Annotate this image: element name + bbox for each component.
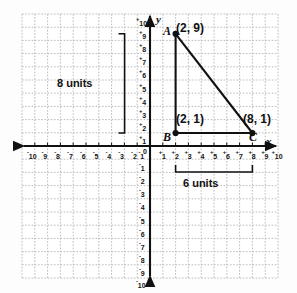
- y-tick--6: -6: [139, 227, 145, 238]
- y-tick--4: -4: [139, 200, 145, 211]
- y-tick-5: +5: [139, 82, 146, 93]
- vertical-measure-label: 8 units: [57, 78, 92, 89]
- y-tick--7: -7: [139, 240, 145, 251]
- y-tick-7: +7: [139, 55, 146, 66]
- y-tick-9: +9: [139, 29, 146, 40]
- coord-label-a: (2, 9): [176, 22, 204, 34]
- x-tick-9: +9: [261, 149, 268, 160]
- x-tick-7: +7: [236, 149, 243, 160]
- point-b: [173, 130, 179, 136]
- coord-label-c: (8, 1): [243, 113, 271, 125]
- x-axis-label: x: [266, 136, 272, 147]
- x-tick-2: +2: [172, 149, 179, 160]
- x-tick--5: -5: [93, 149, 99, 160]
- x-tick-1: +1: [159, 149, 166, 160]
- y-tick-4: +4: [139, 95, 146, 106]
- coord-label-b: (2, 1): [176, 113, 204, 125]
- y-tick--8: -8: [139, 253, 145, 264]
- x-tick--4: -4: [106, 149, 112, 160]
- y-tick--10: -10: [136, 278, 146, 289]
- coordinate-plane-figure: y x 0 -10 -9 -8 -7 -6 -5 -4 -3 -2 -1 +1 …: [0, 0, 297, 293]
- y-tick--5: -5: [139, 214, 145, 225]
- vertex-label-c: C: [249, 131, 257, 143]
- y-tick-2: +2: [139, 121, 146, 132]
- x-tick-6: +6: [223, 149, 230, 160]
- y-tick--9: -9: [139, 266, 145, 277]
- x-tick-4: +4: [197, 149, 204, 160]
- x-tick--8: -8: [54, 149, 60, 160]
- x-tick-3: +3: [184, 149, 191, 160]
- x-tick--3: -3: [118, 149, 124, 160]
- y-tick-1: +1: [139, 134, 146, 145]
- y-tick-10: +10: [136, 16, 147, 27]
- x-tick-8: +8: [248, 149, 255, 160]
- graph-canvas: [0, 0, 297, 293]
- y-tick-6: +6: [139, 68, 146, 79]
- x-tick--7: -7: [67, 149, 73, 160]
- x-tick--10: -10: [27, 149, 37, 160]
- vertex-label-a: A: [163, 25, 171, 37]
- x-tick-5: +5: [210, 149, 217, 160]
- horizontal-measure-label: 6 units: [183, 178, 218, 189]
- x-tick--6: -6: [80, 149, 86, 160]
- y-tick--2: -2: [139, 174, 145, 185]
- x-tick--2: -2: [131, 149, 137, 160]
- x-tick-10: +10: [272, 149, 283, 160]
- y-axis-label: y: [156, 14, 161, 25]
- y-tick-8: +8: [139, 42, 146, 53]
- x-tick--9: -9: [42, 149, 48, 160]
- y-tick--3: -3: [139, 187, 145, 198]
- y-tick-3: +3: [139, 108, 146, 119]
- x-tick--1: -1: [139, 149, 145, 160]
- vertex-label-b: B: [163, 131, 171, 143]
- y-tick--1: -1: [139, 161, 145, 172]
